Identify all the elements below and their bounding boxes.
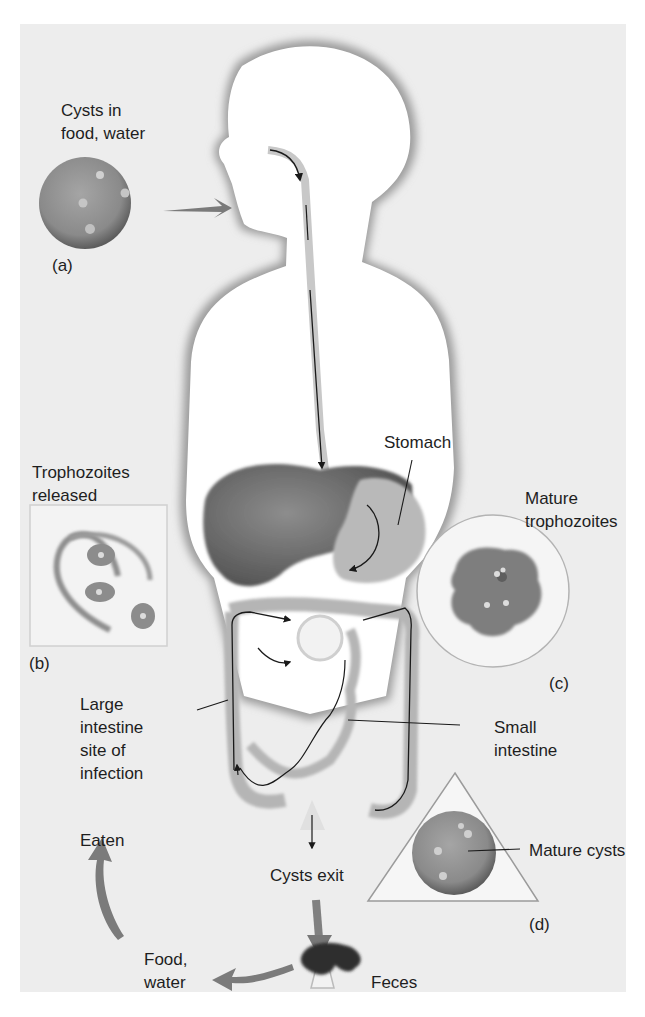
label-feces: Feces [371,971,417,994]
label-stomach: Stomach [384,431,451,454]
label-mature-cysts: Mature cysts [529,839,625,862]
label-panel-a: (a) [52,254,73,277]
trophozoites-released-panel [30,505,167,646]
transmission-arrow-icon [212,964,294,991]
large-intestine-leader-line [197,700,228,710]
label-cysts-exit: Cysts exit [270,864,344,887]
feces-icon [301,943,361,988]
label-large-intestine: Large intestine site of infection [80,693,143,785]
label-mature-trophozoites: Mature trophozoites [525,487,618,533]
label-panel-c: (c) [549,672,569,695]
label-trophozoites-released: Trophozoites released [32,461,130,507]
mature-cysts-panel [368,773,538,901]
label-panel-b: (b) [29,652,50,675]
ingestion-arrow-icon [163,198,232,218]
mature-trophozoites-panel [417,515,569,667]
label-small-intestine: Small intestine [494,716,557,762]
small-intestine-junction [298,616,342,660]
exit-arrow-shaft [316,900,319,938]
label-eaten: Eaten [80,829,124,852]
label-food-water: Food, water [144,948,187,994]
label-cysts-in-food: Cysts in food, water [61,99,145,145]
eaten-arrow-icon [88,838,124,940]
cyst-a-icon [39,157,131,249]
label-panel-d: (d) [529,913,550,936]
